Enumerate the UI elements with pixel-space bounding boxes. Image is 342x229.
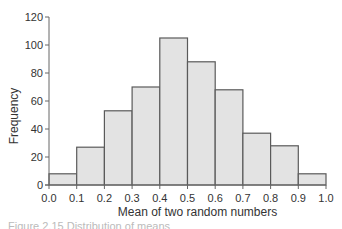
y-tick-label: 120 bbox=[25, 11, 43, 23]
x-tick-label: 0.2 bbox=[97, 192, 112, 204]
x-tick-label: 0.4 bbox=[152, 192, 167, 204]
histogram-chart: 0204060801001200.00.10.20.30.40.50.60.70… bbox=[0, 0, 342, 229]
histogram-bar bbox=[215, 90, 243, 185]
x-tick-label: 0.7 bbox=[235, 192, 250, 204]
x-tick-label: 0.8 bbox=[263, 192, 278, 204]
x-tick-label: 0.5 bbox=[180, 192, 195, 204]
x-tick-label: 0.0 bbox=[41, 192, 56, 204]
histogram-bar bbox=[298, 174, 326, 185]
histogram-bar bbox=[188, 62, 216, 185]
x-tick-label: 0.9 bbox=[291, 192, 306, 204]
y-tick-label: 100 bbox=[25, 39, 43, 51]
y-tick-label: 20 bbox=[31, 151, 43, 163]
figure-caption: Figure 2.15 Distribution of means bbox=[8, 220, 170, 229]
y-tick-label: 40 bbox=[31, 123, 43, 135]
histogram-bar bbox=[132, 87, 160, 185]
histogram-bar bbox=[77, 147, 105, 185]
y-tick-label: 80 bbox=[31, 67, 43, 79]
x-tick-label: 1.0 bbox=[318, 192, 333, 204]
x-axis-title: Mean of two random numbers bbox=[118, 205, 277, 219]
y-tick-label: 60 bbox=[31, 95, 43, 107]
histogram-bar bbox=[160, 38, 188, 185]
y-tick-label: 0 bbox=[37, 179, 43, 191]
histogram-bar bbox=[243, 133, 271, 185]
histogram-bar bbox=[49, 174, 77, 185]
x-tick-label: 0.3 bbox=[124, 192, 139, 204]
x-tick-label: 0.1 bbox=[69, 192, 84, 204]
histogram-bar bbox=[271, 146, 299, 185]
y-axis-title: Frequency bbox=[7, 88, 21, 145]
x-tick-label: 0.6 bbox=[208, 192, 223, 204]
histogram-bar bbox=[104, 111, 132, 185]
